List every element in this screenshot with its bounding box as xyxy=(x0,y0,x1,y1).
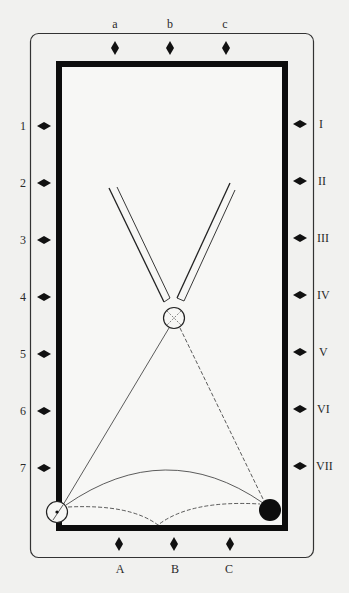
diamond-icon xyxy=(293,462,307,470)
left-label-4: 4 xyxy=(20,291,26,303)
left-label-6: 6 xyxy=(20,405,26,417)
diamond-icon xyxy=(166,41,174,55)
diamond-icon xyxy=(37,293,51,301)
bottom-label-c: C xyxy=(225,563,233,575)
bottom-label-a: A xyxy=(116,563,125,575)
diamond-icon xyxy=(115,537,123,551)
right-label-vii: VII xyxy=(316,460,333,472)
diamond-icon xyxy=(37,122,51,130)
top-diamonds xyxy=(111,41,230,55)
left-diamonds xyxy=(37,122,51,472)
diamond-icon xyxy=(293,291,307,299)
right-label-v: V xyxy=(319,346,328,358)
right-label-vi: VI xyxy=(317,403,330,415)
top-label-b: b xyxy=(167,18,173,30)
bottom-label-b: B xyxy=(171,563,179,575)
diamond-icon xyxy=(293,405,307,413)
right-label-iv: IV xyxy=(317,289,330,301)
black-ball xyxy=(259,499,281,521)
diamond-icon xyxy=(37,236,51,244)
diamond-icon xyxy=(293,348,307,356)
diamond-icon xyxy=(293,234,307,242)
top-label-a: a xyxy=(112,18,117,30)
right-label-i: I xyxy=(319,118,323,130)
top-label-c: c xyxy=(222,18,227,30)
right-diamonds xyxy=(293,120,307,470)
diamond-icon xyxy=(222,41,230,55)
diamond-icon xyxy=(293,177,307,185)
right-label-iii: III xyxy=(317,232,329,244)
diamond-icon xyxy=(37,179,51,187)
left-label-7: 7 xyxy=(20,462,26,474)
cue-ball xyxy=(47,502,68,523)
left-label-1: 1 xyxy=(20,120,26,132)
diamond-icon xyxy=(37,350,51,358)
bottom-diamonds xyxy=(115,537,234,551)
diamond-icon xyxy=(226,537,234,551)
diamond-icon xyxy=(37,464,51,472)
table-rail xyxy=(59,64,285,528)
right-label-ii: II xyxy=(318,175,326,187)
diamond-icon xyxy=(293,120,307,128)
left-label-5: 5 xyxy=(20,348,26,360)
billiards-diagram xyxy=(0,0,349,593)
diamond-icon xyxy=(37,407,51,415)
diamond-icon xyxy=(111,41,119,55)
left-label-3: 3 xyxy=(20,234,26,246)
diamond-icon xyxy=(170,537,178,551)
left-label-2: 2 xyxy=(20,177,26,189)
